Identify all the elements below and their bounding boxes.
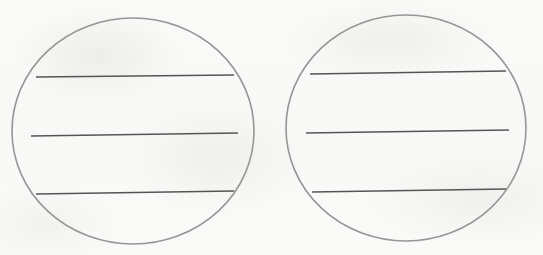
two-circles-sketch	[0, 0, 543, 255]
left-circle-line-3	[36, 191, 234, 194]
right-circle-line-3	[312, 189, 506, 192]
right-circle-line-2	[306, 130, 509, 133]
left-circle-line-1	[36, 75, 234, 77]
left-circle-line-2	[31, 133, 238, 136]
right-circle-line-1	[310, 71, 506, 74]
right-circle	[286, 15, 526, 241]
sketch-canvas	[0, 0, 543, 255]
right-circle-group	[286, 15, 526, 241]
left-circle	[12, 18, 254, 244]
left-circle-group	[12, 18, 254, 244]
